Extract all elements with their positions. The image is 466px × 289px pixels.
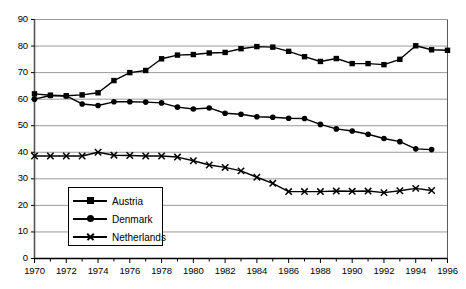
x-tick-label: 1988 [302,265,338,276]
x-tick-label: 1996 [430,265,466,276]
y-tick-label: 40 [2,146,28,157]
data-point [270,114,276,120]
y-tick-label: 10 [2,225,28,236]
data-point [397,57,402,62]
data-point [191,52,196,57]
data-point [429,47,434,52]
data-point [429,147,435,153]
data-point [286,49,291,54]
data-point [397,139,403,145]
data-point [111,99,117,105]
x-tick-label: 1972 [48,265,84,276]
y-tick-label: 20 [2,199,28,210]
data-point [191,106,197,112]
line-chart: 0102030405060708090 19701972197419761978… [0,0,466,289]
data-point [381,136,387,142]
x-tick-label: 1984 [239,265,275,276]
data-point [175,104,181,110]
y-tick-label: 70 [2,66,28,77]
data-point [222,110,228,116]
y-tick-label: 50 [2,119,28,130]
y-tick-label: 60 [2,93,28,104]
y-tick-label: 30 [2,172,28,183]
data-point [334,56,339,61]
legend-marker-circle-icon [73,212,107,226]
chart-legend: AustriaDenmarkNetherlands [68,187,163,246]
data-point [254,44,259,49]
data-point [95,103,101,109]
legend-marker-cross-icon [73,230,107,244]
x-tick-label: 1986 [271,265,307,276]
legend-item-netherlands[interactable]: Netherlands [73,228,161,246]
data-point [206,105,212,111]
data-point [349,128,355,134]
data-point [207,50,212,55]
data-point [32,96,38,102]
y-tick-label: 0 [2,252,28,263]
data-point [238,46,243,51]
data-point [127,99,133,105]
data-point [413,146,419,152]
data-point [413,43,418,48]
data-point [79,101,85,107]
x-tick-label: 1978 [144,265,180,276]
data-point [445,48,450,53]
data-point [63,93,69,99]
data-point [238,112,244,118]
data-point [365,131,371,137]
x-tick-label: 1980 [175,265,211,276]
legend-label: Austria [112,196,143,207]
data-point [318,59,323,64]
data-point [318,122,324,128]
data-point [111,78,116,83]
x-tick-label: 1976 [112,265,148,276]
data-point [286,115,292,121]
legend-item-austria[interactable]: Austria [73,192,161,210]
legend-label: Netherlands [112,232,166,243]
data-point [32,91,37,96]
legend-label: Denmark [112,214,153,225]
y-tick-label: 90 [2,13,28,24]
data-point [127,70,132,75]
data-point [79,92,84,97]
data-point [349,61,354,66]
data-point [143,99,149,105]
data-point [270,44,275,49]
data-point [159,56,164,61]
data-point [254,114,260,120]
data-point [334,126,340,132]
x-tick-label: 1974 [80,265,116,276]
data-point [365,61,370,66]
data-point [381,62,386,67]
legend-marker-square-icon [73,194,107,208]
x-tick-label: 1994 [398,265,434,276]
data-point [175,52,180,57]
x-tick-label: 1982 [207,265,243,276]
x-tick-label: 1992 [366,265,402,276]
data-point [143,68,148,73]
data-point [302,54,307,59]
data-point [48,93,54,99]
y-tick-label: 80 [2,40,28,51]
data-point [302,116,308,122]
data-point [222,50,227,55]
legend-item-denmark[interactable]: Denmark [73,210,161,228]
x-tick-label: 1970 [17,265,53,276]
data-point [159,100,165,106]
data-point [95,90,100,95]
series-denmark [32,93,435,153]
x-tick-label: 1990 [334,265,370,276]
series-austria [32,43,450,98]
